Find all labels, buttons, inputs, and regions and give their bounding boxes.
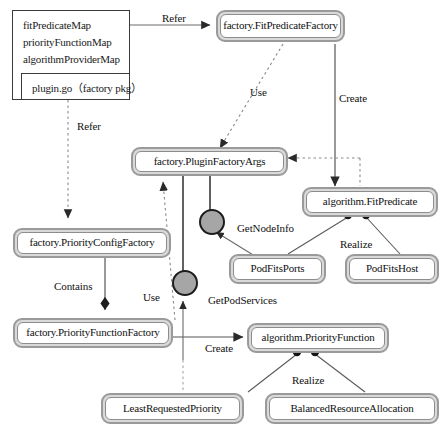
node-label: factory.PriorityConfigFactory [29, 237, 154, 249]
edge-label-create-top: Create [339, 92, 367, 104]
edge-dependency-args [288, 158, 360, 186]
edge-label-use-top: Use [250, 86, 267, 98]
plugin-go-package-box: fitPredicateMap priorityFunctionMap algo… [12, 10, 130, 100]
edge-label-use-bottom: Use [143, 291, 160, 303]
node-factory-fitpredicatefactory[interactable]: factory.FitPredicateFactory [216, 10, 345, 42]
node-algorithm-priorityfunction[interactable]: algorithm.PriorityFunction [247, 323, 389, 353]
node-body: BalancedResourceAllocation [269, 397, 435, 420]
node-body: factory.PluginFactoryArgs [135, 151, 284, 172]
node-podfitshost[interactable]: PodFitsHost [345, 254, 439, 284]
node-label: factory.PriorityFunctionFactory [26, 327, 159, 339]
node-factory-pluginfactoryargs[interactable]: factory.PluginFactoryArgs [131, 147, 288, 176]
edge-label-refer-left: Refer [77, 120, 101, 132]
node-factory-priorityconfigfactory[interactable]: factory.PriorityConfigFactory [13, 228, 171, 258]
node-leastrequestedpriority[interactable]: LeastRequestedPriority [101, 393, 244, 424]
node-label: LeastRequestedPriority [123, 403, 222, 415]
edge-label-realize-priorityfunction: Realize [292, 374, 324, 386]
package-field-algorithmprovidermap: algorithmProviderMap [23, 51, 129, 68]
node-label: algorithm.FitPredicate [323, 196, 417, 208]
node-body: algorithm.FitPredicate [306, 191, 434, 213]
edge-label-refer-top: Refer [162, 12, 186, 24]
interface-ball-getpodservices[interactable] [172, 270, 198, 296]
node-podfitsports[interactable]: PodFitsPorts [229, 254, 326, 284]
interface-ball-getnodeinfo[interactable] [199, 209, 225, 235]
interface-label-getpodservices: GetPodServices [208, 294, 277, 306]
interface-label-getnodeinfo: GetNodeInfo [237, 222, 294, 234]
edge-label-contains: Contains [54, 280, 92, 292]
node-body: factory.FitPredicateFactory [220, 14, 341, 38]
node-label: PodFitsPorts [251, 263, 305, 275]
package-footer-label: plugin.go（factory pkg） [32, 79, 142, 95]
node-label: factory.PluginFactoryArgs [154, 156, 266, 168]
diagram-canvas: fitPredicateMap priorityFunctionMap algo… [0, 0, 445, 439]
node-body: PodFitsHost [349, 258, 435, 280]
node-factory-priorityfunctionfactory[interactable]: factory.PriorityFunctionFactory [13, 318, 173, 348]
edge-label-realize-fitpredicate: Realize [340, 238, 372, 250]
edge-label-create-bottom: Create [205, 342, 233, 354]
node-balancedresourceallocation[interactable]: BalancedResourceAllocation [265, 393, 439, 424]
package-field-priorityfunctionmap: priorityFunctionMap [23, 34, 129, 51]
node-label: algorithm.PriorityFunction [261, 332, 374, 344]
package-field-fitpredicatemap: fitPredicateMap [23, 17, 129, 34]
package-field-list: fitPredicateMap priorityFunctionMap algo… [13, 11, 129, 72]
node-label: factory.FitPredicateFactory [223, 20, 338, 32]
node-body: factory.PriorityFunctionFactory [17, 322, 169, 344]
node-body: PodFitsPorts [233, 258, 322, 280]
node-body: algorithm.PriorityFunction [251, 327, 385, 349]
node-algorithm-fitpredicate[interactable]: algorithm.FitPredicate [302, 187, 438, 217]
node-label: BalancedResourceAllocation [290, 403, 413, 415]
package-footer: plugin.go（factory pkg） [21, 73, 129, 99]
node-body: factory.PriorityConfigFactory [17, 232, 167, 254]
node-label: PodFitsHost [366, 263, 418, 275]
node-body: LeastRequestedPriority [105, 397, 240, 420]
